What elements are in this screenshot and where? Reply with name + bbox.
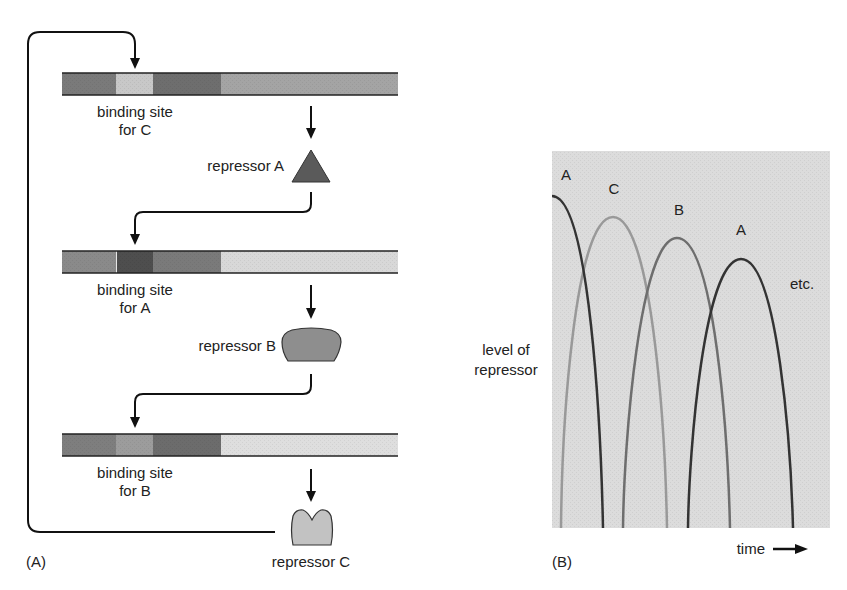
- gene-2-binding-label-line2: for A: [120, 299, 151, 316]
- y-axis-label-line1: level of: [482, 341, 530, 358]
- repressor-c-label: repressor C: [272, 553, 351, 570]
- arrowhead-icon: [306, 308, 316, 319]
- binding-arrow-b: [135, 374, 311, 420]
- time-arrow-icon: [795, 544, 808, 554]
- arrowhead-icon: [306, 491, 316, 502]
- repressor-a-triangle-icon: [292, 150, 330, 182]
- curve-label-b: B: [674, 201, 684, 218]
- repressor-b-label: repressor B: [198, 337, 276, 354]
- curve-label-c: C: [609, 180, 620, 197]
- arrowhead-icon: [130, 417, 140, 428]
- gene-1-binding-label-line2: for C: [119, 121, 152, 138]
- y-axis-label-line2: repressor: [474, 361, 537, 378]
- gene-2: [62, 251, 398, 273]
- gene-3-binding-label-line2: for B: [119, 482, 151, 499]
- panel-b: A C B A etc. level of repressor time (B): [474, 151, 830, 570]
- binding-arrow-a: [135, 192, 311, 237]
- gene-1-binding-label-line1: binding site: [97, 103, 173, 120]
- panel-a: binding site for C repressor A binding s…: [26, 32, 398, 570]
- curve-label-a1: A: [561, 166, 571, 183]
- panel-a-label: (A): [26, 553, 46, 570]
- etc-annotation: etc.: [790, 275, 814, 292]
- panel-b-label: (B): [552, 553, 572, 570]
- feedback-arrowhead-icon: [130, 58, 140, 69]
- repressor-a-label: repressor A: [207, 157, 284, 174]
- gene-3: [62, 434, 398, 456]
- gene-2-binding-label-line1: binding site: [97, 281, 173, 298]
- curve-label-a2: A: [736, 221, 746, 238]
- gene-1: [62, 73, 398, 95]
- x-axis-label: time: [737, 540, 765, 557]
- arrowhead-icon: [130, 234, 140, 245]
- repressor-c-shape-icon: [292, 510, 333, 545]
- gene-3-binding-label-line1: binding site: [97, 464, 173, 481]
- repressilator-figure: binding site for C repressor A binding s…: [0, 0, 847, 590]
- repressor-b-shape-icon: [282, 328, 341, 361]
- arrowhead-icon: [306, 128, 316, 139]
